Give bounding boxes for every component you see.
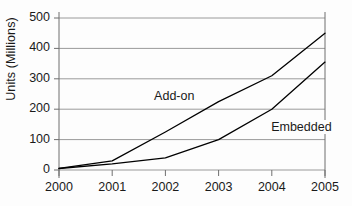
- y-tick-label: 400: [12, 40, 50, 54]
- series-label-add-on: Add-on: [152, 89, 196, 103]
- x-tick-label: 2005: [301, 180, 349, 194]
- y-tick-label: 0: [12, 162, 50, 176]
- y-tick-label: 500: [12, 10, 50, 24]
- x-tick-label: 2004: [248, 180, 296, 194]
- y-tick-label: 200: [12, 101, 50, 115]
- y-tick-label: 100: [12, 132, 50, 146]
- x-tick-label: 2000: [35, 180, 83, 194]
- x-tick-label: 2001: [88, 180, 136, 194]
- series-label-embedded: Embedded: [269, 120, 333, 134]
- x-tick-label: 2002: [141, 180, 189, 194]
- series-line: [59, 62, 325, 168]
- y-tick-label: 300: [12, 71, 50, 85]
- line-chart: Units (Millions) 0100200300400500 200020…: [0, 0, 352, 206]
- x-tick-label: 2003: [195, 180, 243, 194]
